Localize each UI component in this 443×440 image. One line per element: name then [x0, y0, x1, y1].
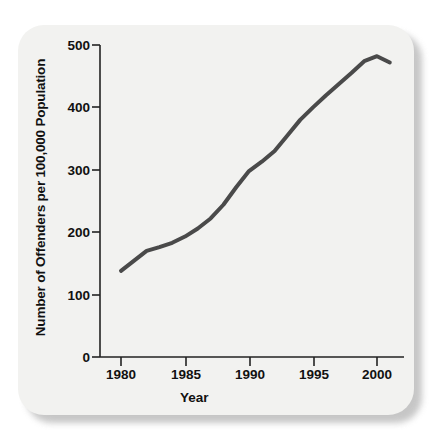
- offender-rate-line: [121, 56, 390, 271]
- chart-figure: Number of Offenders per 100,000 Populati…: [0, 0, 443, 440]
- x-axis-ticks: [121, 357, 377, 366]
- y-axis-ticks: [92, 45, 100, 357]
- plot-area: [0, 0, 443, 440]
